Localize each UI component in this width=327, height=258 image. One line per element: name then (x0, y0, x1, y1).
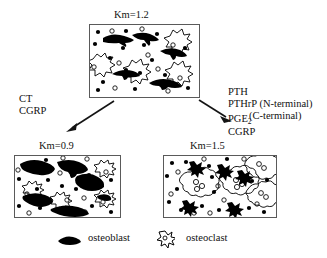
osteoblast-group (180, 161, 254, 217)
panel-km-0-9 (14, 155, 121, 218)
right-pathway-line-0: PTH (228, 86, 312, 98)
arrow-to-km-0-9 (62, 98, 118, 136)
arrow-to-km-1-5 (196, 98, 236, 124)
osteoblast-group (20, 160, 111, 217)
osteoblast-group (103, 33, 187, 90)
right-pathway-cgrp: CGRP (228, 126, 255, 138)
osteoclast-icon (157, 230, 175, 248)
km-label-bottom-left: Km=0.9 (39, 140, 74, 152)
panel-top-contents (90, 25, 199, 97)
osteoclast-large-right-bottom (246, 181, 276, 207)
figure-canvas: Km=1.2 (0, 0, 327, 258)
legend: osteoblast osteoclast (0, 225, 327, 255)
km-label-top: Km=1.2 (114, 9, 149, 21)
right-pathway-line-1: PTHrP (N-terminal) (228, 98, 312, 110)
dot-group-solid (165, 157, 269, 214)
left-pathway-line-1: CGRP (19, 105, 46, 117)
osteoblast-icon (56, 233, 82, 247)
legend-label-osteoclast: osteoclast (186, 232, 227, 243)
panel-km-1-5 (163, 155, 277, 218)
left-pathway-line-0: CT (19, 93, 46, 105)
panel-bottom-right-contents (164, 156, 276, 217)
panel-bottom-left-contents (15, 156, 120, 217)
km-label-bottom-right: Km=1.5 (190, 140, 225, 152)
pge-subscript: 2 (248, 117, 252, 126)
panel-km-1-2 (89, 24, 200, 98)
left-pathway-labels: CT CGRP (19, 93, 46, 117)
legend-label-osteoblast: osteoblast (88, 232, 130, 243)
